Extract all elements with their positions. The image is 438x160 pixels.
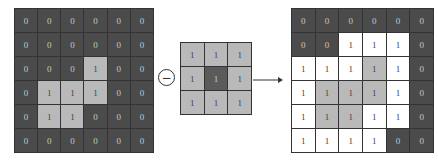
grid-cell: 0 [61,57,83,80]
grid-cell: 1 [339,33,362,56]
grid-cell: 1 [228,67,251,90]
grid-cell: 0 [410,105,433,128]
grid-cell: 0 [316,9,339,32]
grid-cell: 1 [292,57,315,80]
grid-cell: 0 [38,33,60,56]
grid-cell: 0 [410,33,433,56]
grid-cell: 0 [61,129,83,152]
grid-cell: 1 [84,81,106,104]
output-image-grid: 000000001110111110111110111110111100 [291,8,434,153]
grid-cell: 0 [38,57,60,80]
grid-cell: 0 [15,33,37,56]
grid-cell: 0 [363,9,386,32]
grid-cell: 0 [84,129,106,152]
grid-cell: 0 [15,81,37,104]
grid-cell: 0 [108,105,130,128]
grid-cell: 1 [316,105,339,128]
grid-cell: 0 [38,129,60,152]
minus-circle-icon: − [158,69,175,86]
grid-cell: 0 [108,81,130,104]
grid-cell: 0 [61,9,83,32]
grid-cell: 0 [15,105,37,128]
grid-cell: 1 [339,57,362,80]
grid-cell: 0 [15,129,37,152]
grid-cell: 1 [387,33,410,56]
grid-cell: 1 [363,81,386,104]
grid-cell: 0 [292,9,315,32]
grid-cell: 1 [387,81,410,104]
grid-cell: 0 [410,9,433,32]
grid-cell: 0 [61,33,83,56]
grid-cell: 1 [61,81,83,104]
grid-cell: 1 [181,43,204,66]
grid-cell: 1 [316,81,339,104]
grid-cell: 0 [131,57,153,80]
grid-cell: 1 [205,67,228,90]
grid-cell: 0 [387,9,410,32]
grid-cell: 0 [108,57,130,80]
grid-cell: 0 [292,33,315,56]
grid-cell: 1 [205,91,228,114]
grid-cell: 0 [131,81,153,104]
grid-cell: 0 [84,9,106,32]
arrow-right-icon [253,77,283,83]
grid-cell: 0 [316,33,339,56]
grid-cell: 0 [410,57,433,80]
grid-cell: 1 [363,33,386,56]
grid-cell: 1 [339,105,362,128]
grid-cell: 1 [61,105,83,128]
grid-cell: 1 [316,57,339,80]
grid-cell: 1 [228,91,251,114]
grid-cell: 1 [339,129,362,152]
grid-cell: 0 [131,33,153,56]
grid-cell: 0 [410,81,433,104]
grid-cell: 1 [292,81,315,104]
grid-cell: 0 [410,129,433,152]
grid-cell: 1 [363,57,386,80]
grid-cell: 0 [387,129,410,152]
grid-cell: 1 [38,81,60,104]
grid-cell: 1 [181,67,204,90]
grid-cell: 0 [339,9,362,32]
grid-cell: 1 [363,105,386,128]
grid-cell: 1 [84,57,106,80]
grid-cell: 0 [15,9,37,32]
grid-cell: 1 [38,105,60,128]
grid-cell: 1 [316,129,339,152]
grid-cell: 0 [108,9,130,32]
grid-cell: 0 [38,9,60,32]
grid-cell: 1 [339,81,362,104]
grid-cell: 1 [181,91,204,114]
structuring-element-grid: 111111111 [180,42,252,115]
grid-cell: 0 [131,129,153,152]
grid-cell: 1 [387,105,410,128]
grid-cell: 0 [108,33,130,56]
grid-cell: 0 [15,57,37,80]
grid-cell: 0 [131,105,153,128]
input-image-grid: 000000000000000100011100011000000000 [14,8,154,153]
grid-cell: 1 [228,43,251,66]
grid-cell: 0 [108,129,130,152]
grid-cell: 1 [292,105,315,128]
grid-cell: 0 [84,105,106,128]
grid-cell: 0 [131,9,153,32]
grid-cell: 1 [205,43,228,66]
grid-cell: 0 [84,33,106,56]
grid-cell: 1 [363,129,386,152]
grid-cell: 1 [292,129,315,152]
grid-cell: 1 [387,57,410,80]
